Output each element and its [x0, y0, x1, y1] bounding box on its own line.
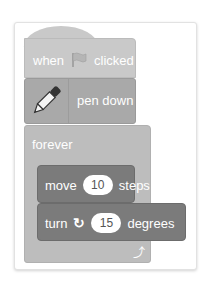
green-flag-icon [70, 52, 88, 68]
move-label: move [45, 178, 77, 193]
hat-text-when: when [33, 53, 64, 68]
when-flag-clicked-block[interactable]: when clicked [24, 38, 136, 78]
pen-down-label: pen down [77, 93, 133, 108]
loop-arrow-icon: ⤴ [133, 243, 145, 260]
degrees-label: degrees [127, 216, 174, 231]
move-steps-input[interactable]: 10 [83, 175, 113, 195]
pen-icon [25, 79, 69, 123]
rotate-clockwise-icon: ↻ [73, 215, 85, 231]
steps-label: steps [119, 178, 150, 193]
turn-degrees-input[interactable]: 15 [91, 213, 121, 233]
turn-degrees-block[interactable]: turn ↻ 15 degrees [37, 203, 186, 241]
turn-label: turn [45, 216, 67, 231]
move-steps-block[interactable]: move 10 steps [37, 165, 135, 203]
pen-down-block[interactable]: pen down [24, 78, 136, 124]
forever-label: forever [32, 137, 72, 152]
hat-text-clicked: clicked [94, 53, 134, 68]
